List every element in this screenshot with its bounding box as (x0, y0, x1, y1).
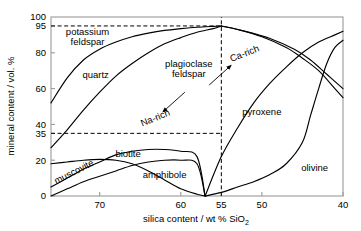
y-tick-label-20: 20 (35, 155, 46, 166)
x-axis-title: silica content / wt % SiO2 (143, 213, 249, 226)
x-tick-label-40: 40 (338, 199, 349, 210)
x-tick-label-50: 50 (257, 199, 268, 210)
curves-group (51, 26, 343, 196)
y-tick-label-60: 60 (35, 83, 46, 94)
y-tick-label-40: 40 (35, 119, 46, 130)
y-tick-label-0: 0 (41, 190, 46, 201)
curve-plagioclase-feldspar (221, 26, 343, 98)
x-tick-label-55: 55 (216, 199, 227, 210)
x-tick-label-60: 60 (175, 199, 186, 210)
y-tick-label-80: 80 (35, 47, 46, 58)
amphibole-label: amphibole (143, 169, 187, 180)
quartz-label: quartz (82, 69, 109, 80)
biotite-label: biotite (115, 148, 140, 159)
plagioclase-feldspar-label: plagioclasefeldspar (165, 58, 213, 79)
pyroxene-label: pyroxene (242, 106, 281, 117)
olivine-label: olivine (301, 162, 328, 173)
annotations-group: potassiumfeldsparquartzplagioclasefeldsp… (52, 26, 328, 186)
y-tick-label-100: 100 (30, 11, 46, 22)
mineral-composition-chart: 70605550400203540608095100 potassiumfeld… (0, 0, 361, 231)
y-axis-title: mineral content / vol. % (5, 56, 16, 155)
chart-root: 70605550400203540608095100 potassiumfeld… (0, 0, 361, 231)
potassium-feldspar-label: potassiumfeldspar (66, 26, 109, 47)
na-rich-label: Na-rich (139, 107, 172, 129)
ca-rich-label: Ca-rich (228, 42, 261, 64)
x-tick-label-70: 70 (94, 199, 105, 210)
